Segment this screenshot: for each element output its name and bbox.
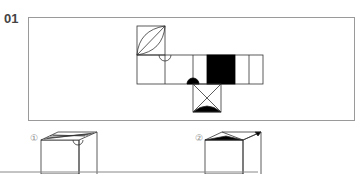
- option-1-label[interactable]: ①: [30, 133, 38, 143]
- net-face-bottom: [193, 84, 221, 112]
- net-face-top: [137, 26, 165, 55]
- net-half-disc: [187, 78, 199, 84]
- option-2-cube[interactable]: [205, 132, 261, 174]
- option-1-cube[interactable]: [41, 132, 97, 174]
- cube-net-diagram: [0, 0, 364, 174]
- option-2-label[interactable]: ②: [195, 133, 203, 143]
- net-middle-row: [137, 55, 263, 84]
- net-face-black: [207, 55, 235, 84]
